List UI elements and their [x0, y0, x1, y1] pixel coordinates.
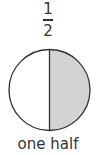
shaded-half [50, 50, 91, 131]
fraction-word-label: one half [0, 135, 96, 153]
half-circle-diagram [0, 0, 96, 155]
